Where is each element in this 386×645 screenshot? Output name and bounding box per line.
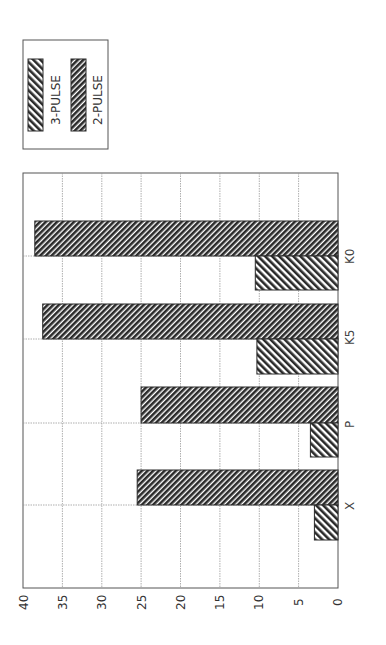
bar-k0-2-pulse (35, 221, 338, 256)
tick-label-5: 5 (292, 598, 306, 606)
legend-label-3-pulse: 3-PULSE (49, 75, 63, 125)
value-axis-labels: 0 5 10 20 15 25 30 35 40 (17, 595, 345, 610)
category-labels: K0 K5 P X (343, 248, 357, 510)
bar-k5-3-pulse (257, 339, 338, 374)
legend-swatch-2-pulse (71, 59, 86, 131)
legend: 3-PULSE 2-PULSE (23, 40, 108, 149)
bar-p-3-pulse (310, 423, 338, 457)
category-label-x: X (343, 502, 357, 510)
tick-label-30: 30 (95, 595, 109, 610)
category-label-p: P (343, 421, 357, 428)
tick-label-10: 10 (252, 595, 266, 610)
tick-label-15: 15 (213, 595, 227, 610)
tick-label-40: 40 (17, 595, 31, 610)
tick-label-20: 20 (174, 595, 188, 610)
category-label-k5: K5 (343, 329, 357, 345)
bar-p-2-pulse (141, 387, 338, 423)
legend-label-2-pulse: 2-PULSE (91, 75, 105, 125)
bar-x-2-pulse (137, 470, 338, 505)
bar-x-3-pulse (314, 505, 338, 540)
bar-chart: 3-PULSE 2-PULSE (0, 0, 386, 645)
tick-label-25: 25 (135, 595, 149, 610)
legend-swatch-3-pulse (28, 59, 43, 131)
bar-k5-2-pulse (43, 304, 338, 339)
category-label-k0: K0 (343, 248, 357, 264)
tick-label-35: 35 (56, 595, 70, 610)
bar-k0-3-pulse (255, 256, 338, 290)
tick-label-0: 0 (331, 598, 345, 606)
